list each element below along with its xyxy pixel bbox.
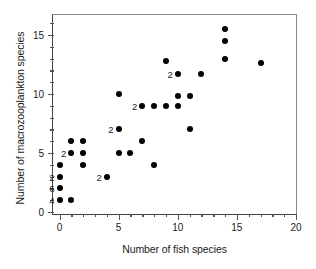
scatter-plot-figure: Number of macrozooplankton species Numbe… <box>0 0 316 269</box>
x-tick-label: 0 <box>57 222 63 233</box>
plot-frame <box>52 14 297 215</box>
y-axis-label: Number of macrozooplankton species <box>11 18 29 218</box>
x-tick-label: 5 <box>116 222 122 233</box>
x-tick-label: 20 <box>290 222 301 233</box>
x-tick-label: 10 <box>172 222 183 233</box>
x-axis-label: Number of fish species <box>52 243 297 255</box>
x-tick-label: 15 <box>231 222 242 233</box>
